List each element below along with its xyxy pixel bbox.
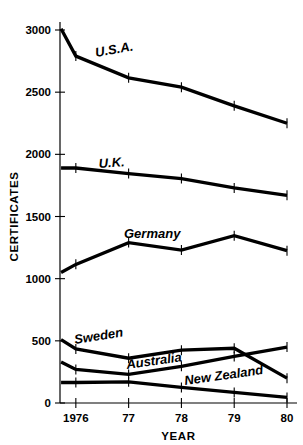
y-tick-label: 3000 (25, 24, 51, 36)
y-tick-label: 1500 (25, 211, 51, 223)
certificates-line-chart: 050010001500200025003000 197677787980 U.… (0, 0, 303, 445)
y-tick-label: 2500 (25, 86, 51, 98)
y-axis-title: CERTIFICATES (8, 171, 20, 261)
series-label-germany: Germany (124, 226, 181, 241)
series-label-u-k: U.K. (98, 154, 125, 171)
y-tick-label: 0 (45, 397, 51, 409)
y-tick-label: 1000 (25, 273, 51, 285)
x-tick-label: 79 (228, 412, 241, 424)
chart-background (0, 0, 303, 445)
x-tick-label: 1976 (63, 412, 89, 424)
chart-canvas: 050010001500200025003000 197677787980 U.… (0, 0, 303, 445)
x-axis-title: YEAR (161, 430, 195, 442)
x-tick-label: 78 (175, 412, 188, 424)
y-tick-label: 500 (32, 335, 51, 347)
x-tick-label: 80 (281, 412, 294, 424)
x-tick-label: 77 (122, 412, 135, 424)
y-tick-label: 2000 (25, 148, 51, 160)
